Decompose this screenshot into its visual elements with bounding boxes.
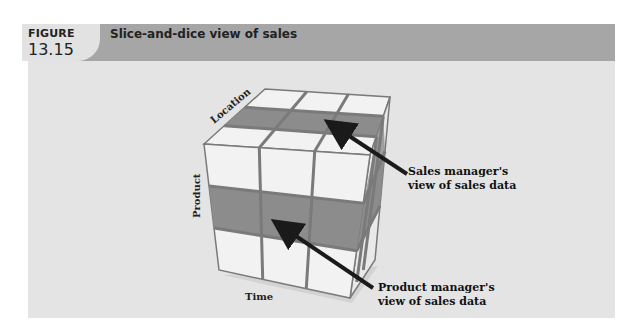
product-manager-callout-line1: Product manager's [378, 281, 495, 295]
sales-manager-callout-line1: Sales manager's [408, 165, 516, 179]
data-cube-diagram: Location Product Time [0, 0, 641, 335]
axis-label-product: Product [191, 173, 202, 218]
sales-manager-callout-line2: view of sales data [408, 179, 516, 193]
axis-label-time: Time [245, 291, 273, 302]
product-manager-callout: Product manager's view of sales data [378, 281, 495, 309]
sales-manager-callout: Sales manager's view of sales data [408, 165, 516, 193]
product-manager-callout-line2: view of sales data [378, 295, 495, 309]
